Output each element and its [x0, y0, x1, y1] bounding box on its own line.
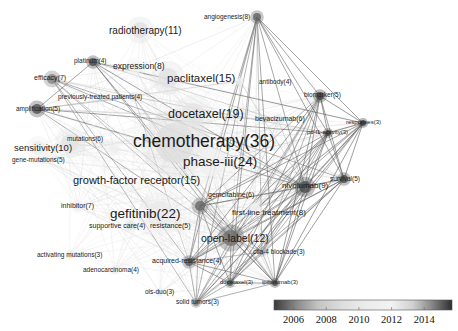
node-label-sensitivity: sensitivity(10) [14, 142, 72, 153]
node-label-adenocarcinoma: adenocarcinoma(4) [83, 266, 139, 274]
edge-amplification-platinum [37, 62, 93, 109]
node-label-responses: responses(3) [346, 119, 381, 125]
node-mutations[interactable] [110, 145, 118, 153]
node-label-nivolumab: nivolumab(9) [282, 181, 329, 190]
node-antibody[interactable] [237, 78, 243, 84]
node-label-inhibitor: inhibitor(7) [61, 202, 94, 210]
node-label-solid-tumors: solid tumors(3) [176, 298, 219, 306]
keyword-network-diagram: chemotherapy(36)phase-iii(24)gefitinib(2… [0, 0, 458, 331]
node-label-amplification: amplification(5) [16, 105, 60, 113]
node-gemcitabine[interactable] [195, 201, 205, 211]
year-colorbar: 20062008201020122014 [274, 300, 452, 325]
colorbar-tick-label: 2008 [316, 314, 337, 325]
node-label-ctla-4-blockade: ctla-4 blockade(3) [253, 248, 305, 256]
labels-layer: chemotherapy(36)phase-iii(24)gefitinib(2… [12, 13, 381, 306]
node-label-resistance: resistance(5) [150, 222, 190, 230]
node-label-expression: expression(8) [113, 61, 165, 71]
node-label-activating-mutations: activating mutations(3) [37, 251, 102, 259]
node-label-chemotherapy: chemotherapy(36) [133, 131, 275, 151]
node-label-acquired-resistance: acquired-resistance(4) [152, 257, 222, 265]
node-label-first-line-treatment: first-line treatment(8) [232, 208, 306, 217]
node-angiogenesis[interactable] [253, 13, 261, 21]
node-label-docetaxel: docetaxel(19) [168, 107, 244, 121]
colorbar-tick-label: 2006 [283, 314, 304, 325]
node-label-growth-factor-receptor: growth-factor receptor(15) [73, 174, 200, 186]
node-label-previously-treated-patients: previously-treated patients(4) [58, 93, 142, 101]
colorbar-tick-label: 2010 [348, 314, 369, 325]
node-label-gefitinib: gefitinib(22) [110, 206, 181, 221]
node-label-gene-mutations: gene-mutations(5) [12, 156, 65, 164]
node-label-survival: survival(5) [330, 175, 360, 183]
node-label-angiogenesis: angiogenesis(8) [204, 13, 250, 21]
node-label-antibody: antibody(4) [259, 78, 292, 86]
node-label-bevacizumab: bevacizumab(6) [255, 115, 305, 123]
node-label-paclitaxel: paclitaxel(15) [167, 72, 236, 84]
node-label-platinum: platinum(4) [74, 57, 107, 65]
node-label-ols-duo: ols-duo(3) [145, 288, 174, 296]
edge-angiogenesis-first-line-treatment [255, 17, 257, 208]
node-label-biomarker: biomarker(5) [304, 91, 341, 99]
colorbar-tick-label: 2014 [414, 314, 436, 325]
node-label-supportive-care: supportive care(4) [89, 222, 145, 230]
node-label-radiotherapy: radiotherapy(11) [109, 25, 182, 36]
colorbar-gradient [274, 300, 452, 310]
node-label-efficacy: efficacy(7) [34, 74, 66, 82]
node-label-ipilimumab: ipilimumab(3) [262, 279, 298, 285]
node-label-gemcitabine: gemcitabine(6) [208, 191, 254, 199]
node-label-open-label: open-label(12) [201, 232, 269, 244]
node-label-mutations: mutations(6) [67, 135, 103, 143]
node-label-pd-l1-activity: pd-l1-activity(3) [307, 129, 348, 135]
node-label-phase-iii: phase-iii(24) [183, 154, 257, 169]
colorbar-tick-label: 2012 [381, 314, 402, 325]
node-label-docetaxel-3: docetaxel(3) [220, 279, 253, 285]
